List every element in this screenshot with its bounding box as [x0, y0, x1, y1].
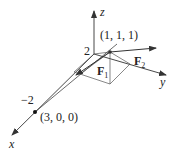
point-1-1-1-label: (1, 1, 1) — [100, 29, 138, 41]
vector-diagram: z y x 2 −2 (1, 1, 1) (3, 0, 0) F1 F2 — [0, 0, 177, 157]
vector-f2-label: F2 — [134, 55, 145, 70]
point-3-0-0-dot — [33, 110, 37, 114]
y-axis-label: y — [160, 76, 165, 88]
diagram-lines — [0, 0, 177, 157]
x-tick-label: −2 — [21, 94, 34, 106]
point-1-1-1-dot — [108, 50, 112, 54]
vector-f1-label: F1 — [97, 65, 108, 80]
box-edge — [110, 64, 130, 84]
z-axis-label: z — [100, 6, 105, 18]
box-edge — [110, 52, 130, 64]
point-3-0-0-label: (3, 0, 0) — [40, 111, 78, 123]
x-axis-label: x — [9, 138, 14, 150]
vector-f2 — [110, 48, 156, 52]
z-tick-label: 2 — [84, 45, 90, 57]
